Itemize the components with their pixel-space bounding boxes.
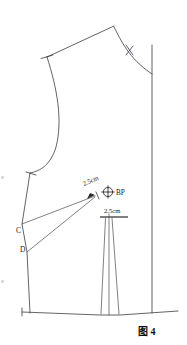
neckline-curve: [114, 27, 152, 74]
dart-left-leg: [101, 218, 106, 314]
bp-arrow-tip-tick: [96, 192, 99, 199]
armhole-curve: [30, 57, 59, 173]
dart-guide-from-c: [22, 196, 95, 224]
horizontal-dimension-label: 2.5cm: [104, 207, 121, 214]
figure-container: 2.5cm BP 2.5cm C D 图 4: [0, 0, 187, 345]
point-c-label: C: [16, 226, 21, 235]
side-seam-line: [22, 173, 30, 313]
edge-artifact-upper: [1, 176, 4, 179]
hem-line: [22, 311, 178, 315]
shoulder-seam-line: [47, 26, 114, 57]
bust-point-label: BP: [116, 189, 125, 197]
dart-right-leg: [112, 218, 119, 314]
pattern-drawing: 2.5cm BP 2.5cm C D 图 4: [0, 0, 187, 345]
figure-caption: 图 4: [138, 326, 156, 337]
point-d-label: D: [20, 245, 26, 254]
dart-guide-from-d: [27, 197, 95, 252]
bust-point-crosshair: [102, 186, 114, 198]
diagonal-dimension-label: 2.5cm: [82, 174, 101, 187]
edge-artifact-lower: [1, 280, 4, 283]
